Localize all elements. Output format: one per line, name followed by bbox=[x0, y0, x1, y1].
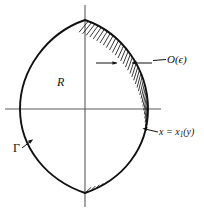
order-epsilon-label: O(ϵ) bbox=[167, 54, 187, 65]
curve-equation-suffix: (y) bbox=[183, 126, 194, 137]
boundary-label-gamma: Γ bbox=[13, 142, 20, 154]
curve-equation-label: x = x1(y) bbox=[159, 127, 194, 139]
region-label-R: R bbox=[57, 76, 64, 88]
axes-group bbox=[5, 5, 161, 207]
leader-line-gamma bbox=[22, 139, 33, 148]
region-boundary-gamma bbox=[20, 20, 148, 193]
curve-equation-prefix: x = x bbox=[159, 126, 180, 137]
leader-line-order-epsilon bbox=[153, 60, 166, 61]
diagram-svg bbox=[0, 0, 204, 212]
figure-canvas: R O(ϵ) x = x1(y) Γ bbox=[0, 0, 204, 212]
boundary-layer-hatching bbox=[79, 21, 148, 195]
